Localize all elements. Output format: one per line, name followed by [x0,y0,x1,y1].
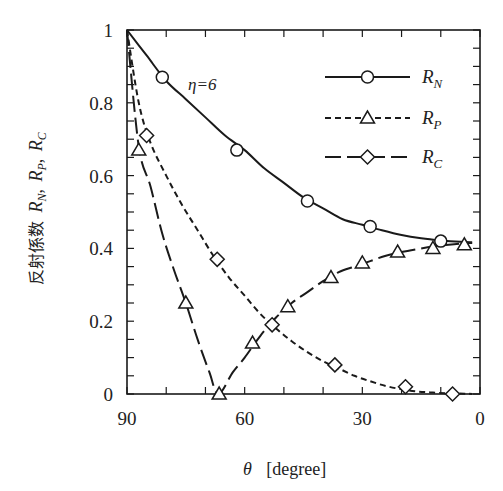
x-axis-title-unit: [degree] [266,459,326,479]
triangle-marker [324,271,338,283]
y-tick-label: 0.4 [89,238,113,259]
marker-layer [132,71,472,401]
eta-annotation: η=6 [188,75,217,94]
reflectance-chart: 906030000.20.40.60.81 RNRPRC η=6 反射係数 RN… [0,0,503,491]
y-tick-label: 0.8 [89,93,113,114]
x-tick-label: 90 [118,408,137,429]
x-tick-label: 0 [475,408,485,429]
circle-marker [231,144,243,156]
svg-text:反射係数 RN, RP,: 反射係数 RN, RP, RC [26,131,49,285]
legend-item-r-c: RC [325,146,443,171]
y-tick-label: 0.6 [89,166,113,187]
circle-marker [364,221,376,233]
diamond-marker [328,358,342,372]
circle-marker [435,235,447,247]
circle-marker [301,195,313,207]
circle-icon [362,71,374,83]
diamond-marker [140,129,154,143]
legend-item-r-n: RN [325,66,444,91]
x-axis-title: θ [degree] [243,459,326,479]
series-layer [127,30,472,394]
y-axis-title-cjk: 反射係数 [27,221,46,285]
x-tick-label: 60 [235,408,254,429]
x-tick-label: 30 [353,408,372,429]
circle-marker [156,71,168,83]
diamond-marker [446,387,460,401]
legend-item-r-p: RP [325,107,442,132]
diamond-icon [361,150,375,164]
series-line-2 [127,30,472,394]
triangle-marker [179,296,193,308]
legend: RNRPRC [325,66,444,171]
y-axis-title: 反射係数 RN, RP, RC [26,131,49,285]
legend-label: RP [421,107,442,132]
triangle-icon [361,111,375,123]
triangle-marker [132,143,146,155]
triangle-marker [246,336,260,348]
x-axis-title-theta: θ [243,459,252,479]
legend-label: RC [421,146,443,171]
y-tick-label: 1 [104,20,114,41]
y-tick-label: 0.2 [89,311,113,332]
legend-label: RN [421,66,444,91]
series-line-1 [127,30,472,394]
y-tick-label: 0 [104,384,114,405]
series-line-0 [127,30,472,242]
svg-text:θ [degree]: θ [degree] [243,459,326,479]
